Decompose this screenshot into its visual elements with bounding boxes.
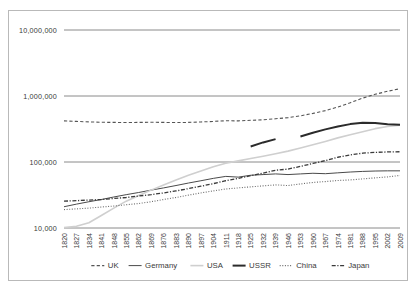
legend-label-uk: UK xyxy=(108,261,120,270)
x-tick-label: 2002 xyxy=(384,233,391,249)
series-line-china xyxy=(64,175,400,209)
x-tick-label: 1960 xyxy=(310,233,317,249)
x-tick-label: 1890 xyxy=(185,233,192,249)
x-tick-label: 1953 xyxy=(297,233,304,249)
series-line-uk xyxy=(64,89,400,123)
x-tick-label: 1925 xyxy=(247,233,254,249)
x-tick-label: 2009 xyxy=(397,233,404,249)
x-tick-label: 1869 xyxy=(148,233,155,249)
x-tick-label: 1988 xyxy=(359,233,366,249)
x-tick-label: 1932 xyxy=(260,233,267,249)
x-tick-label: 1946 xyxy=(285,233,292,249)
x-tick-label: 1918 xyxy=(235,233,242,249)
series-group xyxy=(64,89,400,228)
legend-label-germany: Germany xyxy=(145,261,177,270)
x-tick-label: 1939 xyxy=(272,233,279,249)
legend-group: UKGermanyUSAUSSRChinaJapan xyxy=(91,261,369,270)
x-tick-label: 1841 xyxy=(98,233,105,249)
y-tick-label: 10,000,000 xyxy=(19,26,57,35)
x-tick-label: 1876 xyxy=(160,233,167,249)
x-axis-labels-group: 1820182718341841184818551862186918761883… xyxy=(61,233,404,249)
y-axis-labels-group: 10,000100,0001,000,00010,000,000 xyxy=(19,26,57,233)
y-tick-label: 10,000 xyxy=(34,224,57,233)
x-tick-label: 1981 xyxy=(347,233,354,249)
x-tick-label: 1883 xyxy=(173,233,180,249)
x-tick-label: 1897 xyxy=(198,233,205,249)
line-chart: 10,000100,0001,000,00010,000,000 1820182… xyxy=(0,0,417,290)
legend-label-ussr: USSR xyxy=(249,261,271,270)
x-tick-label: 1862 xyxy=(135,233,142,249)
x-tick-label: 1855 xyxy=(123,233,130,249)
x-tick-label: 1967 xyxy=(322,233,329,249)
y-tick-label: 1,000,000 xyxy=(23,92,57,101)
x-tick-label: 1974 xyxy=(335,233,342,249)
x-tick-label: 1911 xyxy=(223,233,230,248)
x-tick-label: 1827 xyxy=(73,233,80,249)
chart-container: 10,000100,0001,000,00010,000,000 1820182… xyxy=(0,0,417,290)
y-tick-label: 100,000 xyxy=(30,158,57,167)
series-line-ussr xyxy=(251,123,400,147)
x-tick-label: 1848 xyxy=(111,233,118,249)
legend-label-china: China xyxy=(296,261,317,270)
x-tick-label: 1834 xyxy=(86,233,93,249)
legend-label-usa: USA xyxy=(207,261,224,270)
x-tick-label: 1820 xyxy=(61,233,68,249)
x-tick-label: 1995 xyxy=(372,233,379,249)
x-tick-label: 1904 xyxy=(210,233,217,249)
legend-label-japan: Japan xyxy=(348,261,369,270)
